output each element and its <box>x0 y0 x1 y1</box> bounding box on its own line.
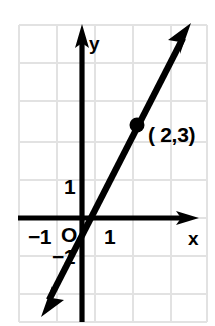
y-tick-label-one: 1 <box>64 176 76 197</box>
figure-background <box>0 0 215 326</box>
x-axis-label: x <box>188 229 199 248</box>
y-tick-label-negative-one: −1 <box>52 246 75 267</box>
graph-figure: y x O −1 1 1 −1 ( 2,3) <box>0 0 215 326</box>
coordinate-plane <box>0 0 215 326</box>
point-marker <box>130 118 145 133</box>
point-coordinate-label: ( 2,3) <box>148 124 195 145</box>
origin-label: O <box>61 224 77 245</box>
y-axis-label: y <box>89 34 100 53</box>
x-tick-label-negative-one: −1 <box>28 226 51 247</box>
x-tick-label-one: 1 <box>104 226 116 247</box>
